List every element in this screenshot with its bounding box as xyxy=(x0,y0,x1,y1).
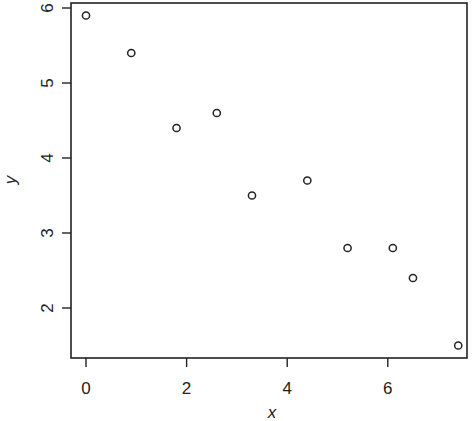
y-axis: 23456 xyxy=(38,3,71,312)
x-tick-label: 4 xyxy=(282,379,291,398)
y-tick-label: 3 xyxy=(38,228,57,237)
data-point xyxy=(304,177,311,184)
y-tick-label: 4 xyxy=(38,153,57,162)
data-points xyxy=(82,12,461,349)
data-point xyxy=(213,109,220,116)
y-axis-title: y xyxy=(1,174,20,185)
scatter-plot: 0246 23456 x y xyxy=(0,0,472,421)
x-tick-label: 0 xyxy=(81,379,90,398)
data-point xyxy=(409,274,416,281)
x-axis-title: x xyxy=(267,403,277,421)
x-axis: 0246 xyxy=(81,358,392,398)
data-point xyxy=(173,124,180,131)
data-point xyxy=(82,12,89,19)
y-tick-label: 6 xyxy=(38,3,57,12)
data-point xyxy=(344,244,351,251)
data-point xyxy=(389,244,396,251)
data-point xyxy=(455,342,462,349)
x-tick-label: 6 xyxy=(383,379,392,398)
data-point xyxy=(248,192,255,199)
data-point xyxy=(128,49,135,56)
x-tick-label: 2 xyxy=(182,379,191,398)
y-tick-label: 2 xyxy=(38,303,57,312)
y-tick-label: 5 xyxy=(38,78,57,87)
